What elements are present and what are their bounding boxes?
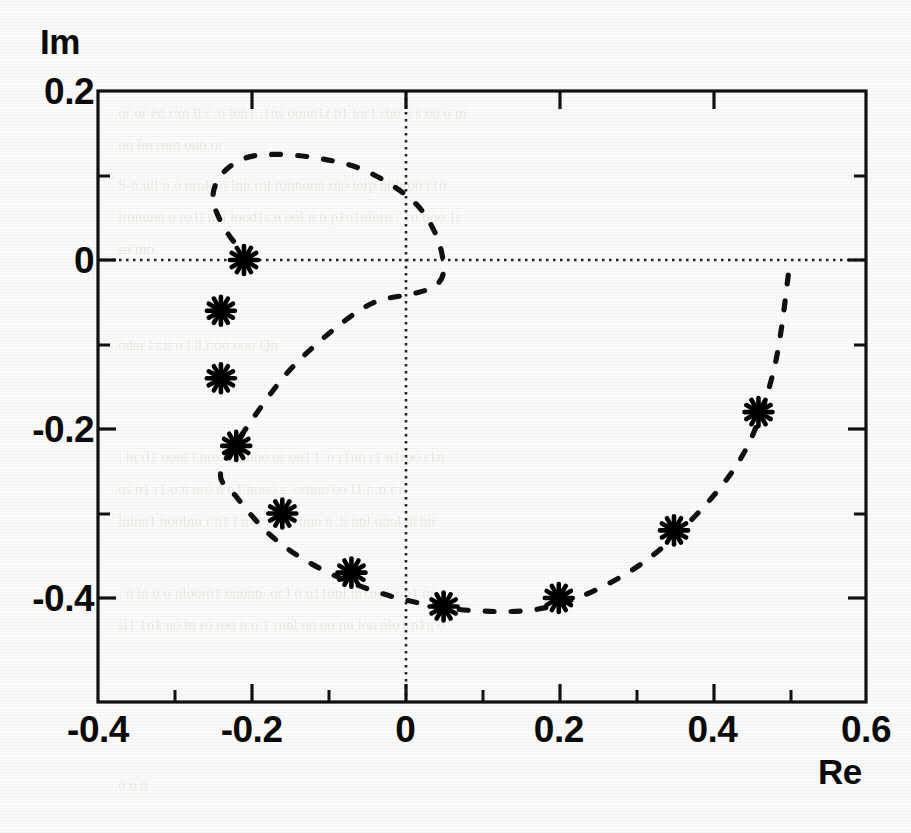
data-point-marker [430, 592, 458, 620]
y-axis-right-ticks [848, 260, 866, 598]
y-tick-label: -0.2 [32, 411, 94, 448]
data-point-marker [207, 364, 235, 392]
scatter-plot-figure: Im Re -0.4-0.200.20.40.60.20-0.2-0.4 [0, 0, 911, 833]
y-tick-label: 0.2 [44, 73, 94, 110]
data-point-marker [337, 559, 365, 587]
plot-canvas [0, 0, 911, 833]
x-tick-label: 0.2 [534, 711, 584, 748]
data-point-marker [268, 500, 296, 528]
data-point-marker [660, 516, 688, 544]
plot-frame [98, 91, 866, 702]
data-point-marker [744, 398, 772, 426]
data-point-marker [545, 584, 573, 612]
data-point-marker [230, 246, 258, 274]
x-tick-label: -0.2 [221, 711, 283, 748]
x-tick-label: 0.6 [841, 711, 891, 748]
y-tick-label: 0 [74, 242, 94, 279]
x-tick-label: 0.4 [687, 711, 737, 748]
x-tick-label: -0.4 [67, 711, 129, 748]
y-axis-major-ticks [98, 260, 116, 598]
y-axis-title: Im [40, 24, 80, 59]
x-tick-label: 0 [395, 711, 415, 748]
x-axis-top-ticks [252, 91, 714, 109]
reference-contour [213, 154, 789, 611]
x-axis-title: Re [818, 754, 862, 789]
minor-ticks [98, 176, 866, 702]
data-point-markers [207, 246, 773, 620]
y-tick-label: -0.4 [32, 580, 94, 617]
data-point-marker [207, 297, 235, 325]
